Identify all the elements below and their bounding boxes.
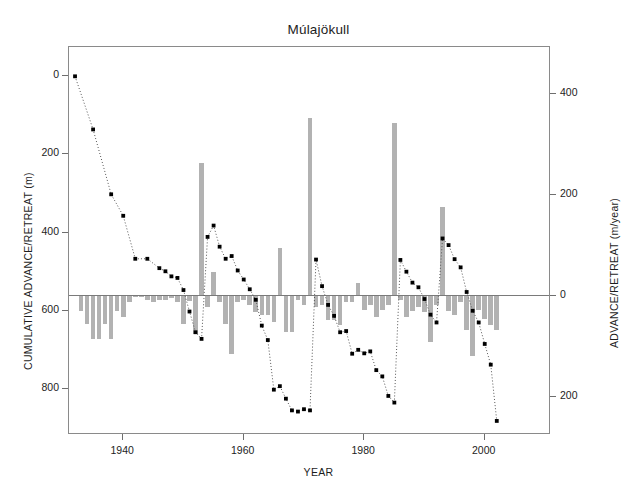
data-point-marker bbox=[314, 258, 318, 262]
data-point-marker bbox=[471, 309, 475, 313]
data-point-marker bbox=[332, 314, 336, 318]
y-tick-left bbox=[62, 388, 68, 389]
data-point-marker bbox=[248, 287, 252, 291]
data-point-marker bbox=[356, 348, 360, 352]
x-tick-label: 1960 bbox=[218, 444, 268, 456]
data-point-marker bbox=[483, 342, 487, 346]
y-tick-left bbox=[62, 310, 68, 311]
data-point-marker bbox=[170, 274, 174, 278]
data-point-marker bbox=[296, 410, 300, 414]
data-point-marker bbox=[429, 313, 433, 317]
y-tick-label-left: 0 bbox=[18, 68, 59, 80]
x-tick bbox=[363, 434, 364, 440]
y-tick-label-right: 400 bbox=[560, 86, 600, 98]
x-tick-label: 2000 bbox=[459, 444, 509, 456]
x-tick-label: 1940 bbox=[97, 444, 147, 456]
data-point-marker bbox=[392, 401, 396, 405]
y-tick-left bbox=[62, 232, 68, 233]
y-tick-right bbox=[550, 295, 556, 296]
data-point-marker bbox=[495, 419, 499, 423]
data-point-marker bbox=[441, 237, 445, 241]
data-point-marker bbox=[206, 235, 210, 239]
x-tick bbox=[484, 434, 485, 440]
data-point-marker bbox=[182, 288, 186, 292]
y-axis-title-left: CUMULATIVE ADVANCE/RETREAT (m) bbox=[22, 172, 34, 370]
data-point-marker bbox=[266, 338, 270, 342]
data-point-marker bbox=[176, 276, 180, 280]
data-point-marker bbox=[380, 374, 384, 378]
plot-area bbox=[68, 46, 550, 434]
data-point-marker bbox=[194, 330, 198, 334]
data-point-marker bbox=[236, 269, 240, 273]
data-point-marker bbox=[338, 330, 342, 334]
data-point-marker bbox=[260, 324, 264, 328]
data-point-marker bbox=[447, 243, 451, 247]
y-tick-right bbox=[550, 93, 556, 94]
y-tick-label-right: 200 bbox=[560, 389, 600, 401]
data-point-marker bbox=[91, 128, 95, 132]
data-point-marker bbox=[302, 407, 306, 411]
y-tick-right bbox=[550, 194, 556, 195]
data-point-marker bbox=[405, 270, 409, 274]
data-point-marker bbox=[242, 278, 246, 282]
data-point-marker bbox=[350, 352, 354, 356]
y-tick-label-right: 0 bbox=[560, 288, 600, 300]
data-point-marker bbox=[368, 349, 372, 353]
y-tick-label-left: 800 bbox=[18, 381, 59, 393]
data-point-marker bbox=[326, 303, 330, 307]
data-point-marker bbox=[278, 384, 282, 388]
x-tick bbox=[122, 434, 123, 440]
plot-clip bbox=[69, 47, 549, 433]
data-point-marker bbox=[212, 224, 216, 228]
line-series bbox=[69, 47, 549, 433]
data-point-marker bbox=[224, 257, 228, 261]
data-point-marker bbox=[200, 337, 204, 341]
x-tick bbox=[243, 434, 244, 440]
data-point-marker bbox=[459, 265, 463, 269]
data-point-marker bbox=[230, 254, 234, 258]
data-point-marker bbox=[386, 394, 390, 398]
y-tick-label-left: 200 bbox=[18, 146, 59, 158]
chart-figure: Múlajökull 02004006008004002000200194019… bbox=[0, 0, 637, 493]
data-point-marker bbox=[344, 329, 348, 333]
y-tick-right bbox=[550, 396, 556, 397]
y-axis-title-right: ADVANCE/RETREAT (m/year) bbox=[608, 198, 620, 348]
data-point-marker bbox=[157, 266, 161, 270]
data-point-marker bbox=[320, 284, 324, 288]
data-point-marker bbox=[411, 281, 415, 285]
cumulative-line bbox=[75, 76, 497, 421]
data-point-marker bbox=[272, 388, 276, 392]
y-tick-label-right: 200 bbox=[560, 187, 600, 199]
y-tick-left bbox=[62, 75, 68, 76]
data-point-marker bbox=[435, 321, 439, 325]
data-point-marker bbox=[218, 245, 222, 249]
y-tick-left bbox=[62, 153, 68, 154]
data-point-marker bbox=[374, 368, 378, 372]
data-point-marker bbox=[362, 351, 366, 355]
data-point-marker bbox=[121, 214, 125, 218]
data-point-marker bbox=[453, 257, 457, 261]
data-point-marker bbox=[73, 74, 77, 78]
data-point-marker bbox=[254, 298, 258, 302]
data-point-marker bbox=[188, 310, 192, 314]
data-point-marker bbox=[145, 257, 149, 261]
data-point-marker bbox=[423, 297, 427, 301]
data-point-marker bbox=[489, 363, 493, 367]
data-point-marker bbox=[284, 397, 288, 401]
data-point-marker bbox=[477, 321, 481, 325]
data-point-marker bbox=[109, 192, 113, 196]
data-point-marker bbox=[308, 408, 312, 412]
x-axis-title: YEAR bbox=[0, 466, 637, 478]
chart-title: Múlajökull bbox=[0, 22, 637, 37]
data-point-marker bbox=[133, 257, 137, 261]
data-point-marker bbox=[465, 290, 469, 294]
data-point-marker bbox=[290, 408, 294, 412]
data-point-marker bbox=[417, 285, 421, 289]
x-tick-label: 1980 bbox=[338, 444, 388, 456]
data-point-marker bbox=[164, 269, 168, 273]
data-point-marker bbox=[398, 258, 402, 262]
